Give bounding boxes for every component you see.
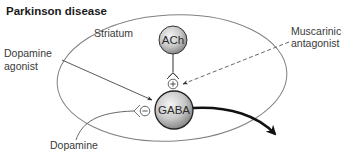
plus-sign-icon <box>168 79 178 89</box>
dopamine-agonist-label-line1: Dopamine <box>4 47 52 59</box>
dopamine-label: Dopamine <box>50 139 98 151</box>
striatum-label: Striatum <box>94 27 133 39</box>
ach-label: ACh <box>162 34 184 46</box>
diagram-title: Parkinson disease <box>6 5 107 17</box>
gaba-neuron: GABA <box>155 91 193 129</box>
muscarinic-antagonist-label-line2: antagonist <box>291 37 340 49</box>
gaba-label: GABA <box>158 104 190 116</box>
ach-neuron: ACh <box>159 26 187 54</box>
dopamine-agonist-label-line2: agonist <box>4 60 38 72</box>
dopamine-pathway <box>76 111 134 140</box>
muscarinic-antagonist-arrow <box>183 42 289 84</box>
gaba-output-arrow <box>193 108 275 134</box>
muscarinic-antagonist-label-line1: Muscarinic <box>291 25 341 37</box>
dopamine-agonist-arrow <box>62 60 152 100</box>
parkinson-diagram: Parkinson disease Striatum ACh GABA Dopa… <box>0 0 341 153</box>
minus-sign-icon <box>140 106 150 116</box>
dopamine-receptor-icon <box>134 105 140 117</box>
